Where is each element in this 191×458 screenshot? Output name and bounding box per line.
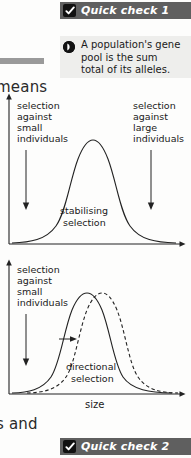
- svg-text:selection: selection: [133, 100, 176, 111]
- svg-text:against: against: [133, 111, 168, 122]
- svg-text:selection: selection: [63, 217, 106, 228]
- svg-text:stabilising: stabilising: [60, 205, 108, 216]
- check-badge-icon: [63, 4, 76, 17]
- svg-text:small: small: [17, 286, 42, 297]
- chart-stabilising-selection: selection against small individuals sele…: [0, 92, 191, 250]
- y-axis: [6, 260, 12, 395]
- svg-text:individuals: individuals: [17, 133, 68, 144]
- svg-text:small: small: [17, 122, 42, 133]
- answer-bullet-icon: [63, 41, 75, 53]
- svg-text:directional: directional: [66, 361, 116, 372]
- svg-text:individuals: individuals: [17, 297, 68, 308]
- svg-text:individuals: individuals: [133, 133, 184, 144]
- shift-arrow: [59, 336, 77, 342]
- svg-text:selection: selection: [71, 373, 114, 384]
- check-badge-icon: [63, 440, 76, 453]
- y-axis: [6, 94, 12, 245]
- svg-text:selection: selection: [17, 264, 60, 275]
- quick-check-2-label: Quick check 2: [81, 440, 169, 453]
- curve-label: directional selection: [66, 361, 116, 384]
- quick-check-1-banner: Quick check 1: [60, 2, 191, 19]
- answer-line-1: A population's gene: [81, 39, 180, 50]
- quick-check-2-banner: Quick check 2: [60, 438, 191, 455]
- answer-text: A population's gene pool is the sum tota…: [81, 39, 180, 75]
- textbook-page: Quick check 1 A population's gene pool i…: [0, 0, 191, 458]
- svg-text:against: against: [17, 111, 52, 122]
- x-axis-label: size: [85, 249, 104, 250]
- svg-text:large: large: [133, 122, 157, 133]
- chart-directional-selection: selection against small individuals dire…: [0, 258, 191, 408]
- right-selection-annotation: selection against large individuals: [133, 100, 184, 210]
- x-axis-label: size: [85, 399, 104, 410]
- quick-check-1-label: Quick check 1: [81, 4, 169, 17]
- page-rule-fragment: [0, 58, 44, 64]
- page-text-fragment-bottom: s and: [0, 415, 38, 433]
- answer-box: A population's gene pool is the sum tota…: [60, 36, 191, 78]
- left-selection-annotation: selection against small individuals: [17, 100, 68, 210]
- svg-text:selection: selection: [17, 100, 60, 111]
- svg-text:against: against: [17, 275, 52, 286]
- answer-line-2: pool is the sum: [81, 52, 158, 63]
- curve-label: stabilising selection: [60, 205, 108, 228]
- answer-line-3: total of its alleles.: [81, 64, 170, 75]
